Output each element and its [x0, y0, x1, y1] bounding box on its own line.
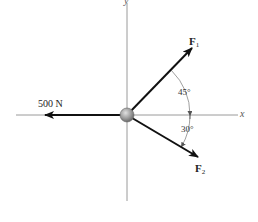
- y-axis-label: y: [124, 0, 128, 6]
- angle-45-label: 45°: [178, 88, 191, 97]
- force-f2-label-main: F: [195, 162, 202, 174]
- force-f1-label-main: F: [189, 35, 196, 47]
- force-f1-label-sub: 1: [196, 41, 200, 49]
- force-f2-label-sub: 2: [202, 168, 206, 176]
- angle-30-label: 30°: [181, 125, 194, 134]
- force-500n-label: 500 N: [38, 99, 63, 109]
- force-f2-arrow: [127, 115, 198, 157]
- force-f1-label: F1: [189, 36, 199, 49]
- force-f1-arrow: [127, 48, 192, 115]
- force-f2-label: F2: [195, 163, 205, 176]
- particle: [120, 108, 134, 122]
- force-diagram: [0, 0, 258, 222]
- x-axis-label: x: [240, 109, 244, 119]
